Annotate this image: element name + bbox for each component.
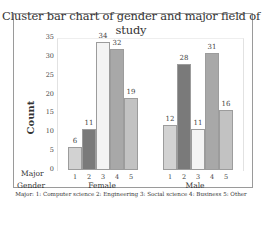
bar-male-major-4	[205, 53, 219, 170]
x-tick-label: 4	[207, 173, 217, 181]
bar-value-label: 11	[190, 119, 206, 127]
x-tick-label: 1	[70, 173, 80, 181]
bar-male-major-3	[191, 129, 205, 170]
x-tick-label: 2	[179, 173, 189, 181]
y-axis-label: Count	[25, 98, 36, 138]
group-label-female: Female	[77, 181, 127, 190]
y-tick-label: 15	[36, 108, 54, 116]
bar-value-label: 32	[109, 39, 125, 47]
bar-value-label: 6	[67, 137, 83, 145]
group-label-male: Male	[170, 181, 220, 190]
gender-row-label: Gender	[17, 181, 45, 190]
bar-female-major-2	[82, 129, 96, 170]
bar-male-major-2	[177, 64, 191, 170]
bar-female-major-4	[110, 49, 124, 170]
x-tick-label: 4	[112, 173, 122, 181]
bar-male-major-5	[219, 110, 233, 170]
y-tick-label: 30	[36, 52, 54, 60]
bar-value-label: 19	[123, 88, 139, 96]
x-tick-label: 3	[193, 173, 203, 181]
x-tick-label: 2	[84, 173, 94, 181]
y-tick-label: 20	[36, 90, 54, 98]
y-tick-label: 35	[36, 33, 54, 41]
x-tick-label: 5	[126, 173, 136, 181]
x-tick-label: 3	[98, 173, 108, 181]
bar-male-major-1	[163, 125, 177, 170]
bar-value-label: 28	[176, 54, 192, 62]
bar-female-major-3	[96, 42, 110, 170]
major-row-label: Major	[21, 169, 44, 178]
y-tick-label: 25	[36, 71, 54, 79]
bar-female-major-5	[124, 98, 138, 170]
major-legend-note: Major: 1: Computer science 2: Engineerin…	[0, 191, 262, 197]
bar-value-label: 31	[204, 43, 220, 51]
x-tick-label: 5	[221, 173, 231, 181]
bar-value-label: 16	[218, 100, 234, 108]
y-tick-label: 10	[36, 127, 54, 135]
bar-value-label: 12	[162, 115, 178, 123]
bar-value-label: 11	[81, 119, 97, 127]
bar-female-major-1	[68, 147, 82, 170]
y-tick-label: 5	[36, 146, 54, 154]
x-tick-label: 1	[165, 173, 175, 181]
